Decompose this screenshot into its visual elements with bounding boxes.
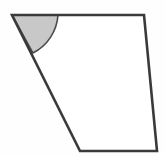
figure-canvas: [0, 0, 165, 155]
quadrilateral-diagram-svg: [0, 0, 165, 155]
